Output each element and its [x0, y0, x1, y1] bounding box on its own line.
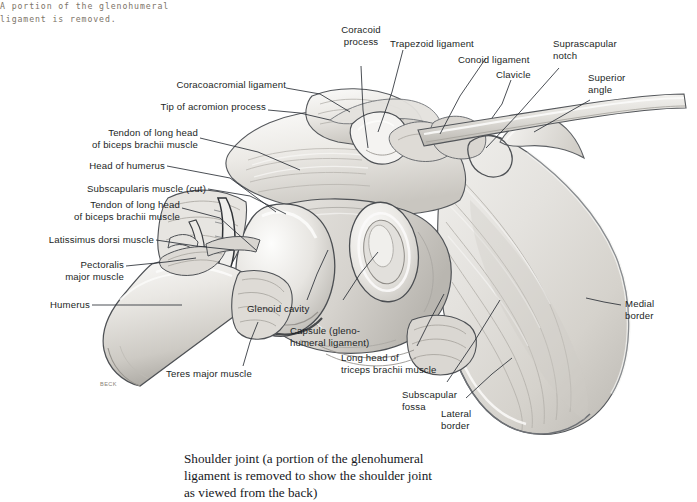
label-capsule-glenohumeral-ligament: Capsule (gleno- humeral ligament)	[290, 325, 400, 350]
label-coracoacromial-ligament: Coracoacromial ligament	[82, 79, 286, 91]
label-long-head-triceps: Long head of triceps brachii muscle	[341, 352, 473, 377]
label-subscapularis-muscle-cut: Subscapularis muscle (cut)	[40, 183, 206, 195]
label-superior-angle: Superior angle	[588, 72, 650, 97]
label-lateral-border: Lateral border	[441, 408, 501, 433]
artist-signature: BECK	[100, 381, 117, 387]
label-glenoid-cavity: Glenoid cavity	[247, 303, 339, 315]
label-tendon-long-head-biceps-upper: Tendon of long head of biceps brachii mu…	[60, 127, 198, 152]
label-trapezoid-ligament: Trapezoid ligament	[390, 38, 514, 50]
label-conoid-ligament: Conoid ligament	[458, 54, 568, 66]
label-latissimus-dorsi-muscle: Latissimus dorsi muscle	[22, 234, 154, 246]
label-coracoid-process: Coracoid process	[325, 24, 397, 49]
label-medial-border: Medial border	[625, 298, 685, 323]
label-tendon-long-head-biceps-lower: Tendon of long head of biceps brachii mu…	[34, 199, 180, 224]
label-suprascapular-notch: Suprascapular notch	[553, 38, 649, 63]
label-teres-major-muscle: Teres major muscle	[166, 368, 286, 380]
label-pectoralis-major-muscle: Pectoralis major muscle	[34, 259, 124, 284]
label-clavicle: Clavicle	[496, 69, 558, 81]
label-head-of-humerus: Head of humerus	[60, 160, 165, 172]
figure-note: A portion of the glenohumeral ligament i…	[0, 0, 169, 25]
label-humerus: Humerus	[30, 299, 90, 311]
label-tip-of-acromion-process: Tip of acromion process	[82, 101, 266, 113]
figure-caption: Shoulder joint (a portion of the glenohu…	[184, 450, 514, 501]
